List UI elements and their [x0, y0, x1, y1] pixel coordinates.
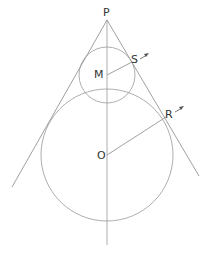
label-S: S	[131, 53, 138, 66]
left-tangent-line	[12, 20, 107, 187]
label-O: O	[97, 149, 106, 162]
label-P: P	[103, 6, 110, 19]
radius-OR	[107, 117, 166, 155]
label-M: M	[94, 68, 104, 81]
right-tangent-line	[107, 20, 199, 176]
diagram-canvas: P M O S R	[0, 0, 205, 255]
radius-MS	[107, 62, 132, 75]
label-R: R	[165, 108, 173, 121]
